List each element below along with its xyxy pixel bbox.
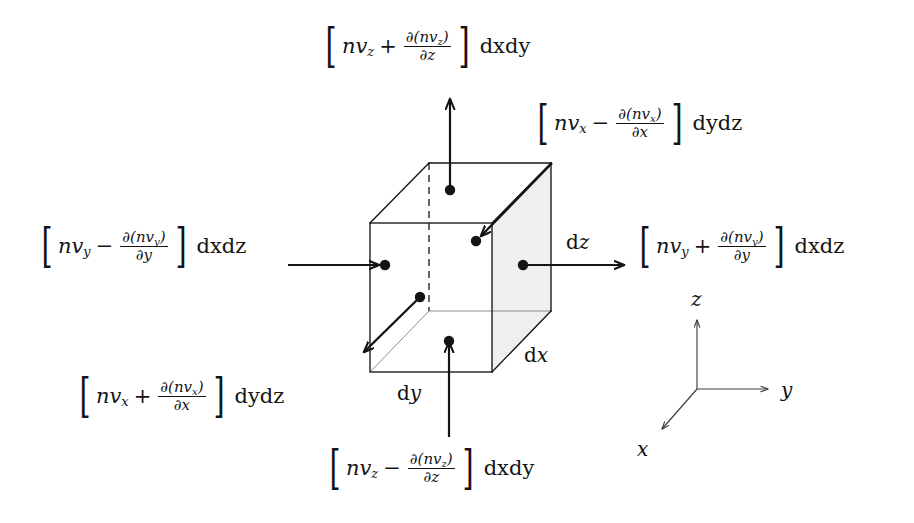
flux-top-right-operator: − [587,113,615,134]
dy-var: y [410,381,421,405]
flux-right-numerator-sub: y [752,236,758,247]
flux-right-symbol: nv [656,236,681,257]
flux-arrow-bottom [444,336,454,437]
bracket-left-icon: [ [79,378,90,416]
flux-bottom-symbol: nv [346,458,371,479]
flux-bottom-left-denominator: ∂x [172,397,192,413]
flux-bottom-left-numerator: ∂(nv [160,378,192,396]
flux-left-numerator: ∂(nv [122,228,154,246]
flux-arrow-left [288,260,390,270]
dimension-label-dx: dx [524,343,548,367]
dz-prefix: d [566,230,579,254]
axis-label-x: x [637,437,648,461]
flux-bottom-numerator-close: ) [447,450,453,468]
flux-top-right-symbol: nv [554,113,579,134]
flux-top-numerator: ∂(nv [406,28,438,46]
flux-top-symbol: nv [342,36,367,57]
flux-top-denominator: ∂z [417,47,437,63]
bracket-right-icon: ] [175,228,186,266]
flux-top-fraction: ∂(nvz) ∂z [404,30,451,63]
flux-top-right-fraction: ∂(nvx) ∂x [616,107,663,140]
axis-label-z: z [691,287,702,311]
bracket-left-icon: [ [329,450,340,488]
bracket-right-icon: ] [213,378,224,416]
flux-left-fraction: ∂(nvy) ∂y [120,230,167,263]
flux-bottom-numerator: ∂(nv [410,450,442,468]
flux-bottom-left-numerator-sub: x [192,386,198,397]
flux-bottom-fraction: ∂(nvz) ∂z [408,452,455,485]
bracket-left-icon: [ [639,228,650,266]
flux-top-numerator-close: ) [443,28,449,46]
flux-arrow-front-x [364,292,425,352]
flux-right-numerator: ∂(nv [720,228,752,246]
bracket-right-icon: ] [462,450,473,488]
bracket-right-icon: ] [671,105,682,143]
flux-bottom-operator: − [378,458,406,479]
flux-bottom-tail: dxdy [484,458,535,479]
flux-label-bottom: [ nvz − ∂(nvz) ∂z ] dxdy [326,450,534,488]
flux-bottom-denominator: ∂z [421,469,441,485]
flux-label-left: [ nvy − ∂(nvy) ∂y ] dxdz [38,228,246,266]
flux-bottom-left-tail: dydz [235,386,285,407]
flux-bottom-numerator-sub: z [442,458,447,469]
flux-label-top-right: [ nvx − ∂(nvx) ∂x ] dydz [534,105,742,143]
bracket-right-icon: ] [458,28,469,66]
figure-canvas: [ nvz + ∂(nvz) ∂z ] dxdy [ nvx − ∂(nvx) [0,0,914,523]
flux-bottom-symbol-sub: z [371,467,378,480]
dx-prefix: d [524,343,537,367]
bracket-left-icon: [ [537,105,548,143]
dimension-label-dy: dy [397,381,421,405]
flux-top-right-tail: dydz [693,113,743,134]
flux-top-tail: dxdy [480,36,531,57]
flux-right-tail: dxdz [795,236,845,257]
axes-triad [662,320,768,429]
flux-left-symbol: nv [58,236,83,257]
flux-right-operator: + [689,236,717,257]
dz-var: z [579,230,590,254]
flux-right-symbol-sub: y [681,245,688,258]
flux-bottom-left-symbol-sub: x [121,395,128,408]
flux-label-right: [ nvy + ∂(nvy) ∂y ] dxdz [636,228,844,266]
flux-top-right-numerator-sub: x [650,113,656,124]
flux-top-symbol-sub: z [367,45,374,58]
flux-top-operator: + [374,36,402,57]
flux-top-numerator-sub: z [438,36,443,47]
bracket-right-icon: ] [773,228,784,266]
flux-bottom-left-fraction: ∂(nvx) ∂x [158,380,205,413]
bracket-left-icon: [ [41,228,52,266]
dx-var: x [537,343,548,367]
flux-top-right-denominator: ∂x [630,124,650,140]
dimension-label-dz: dz [566,230,589,254]
flux-top-right-symbol-sub: x [579,122,586,135]
flux-label-bottom-left: [ nvx + ∂(nvx) ∂x ] dydz [76,378,284,416]
flux-label-top: [ nvz + ∂(nvz) ∂z ] dxdy [322,28,530,66]
flux-left-operator: − [91,236,119,257]
dy-prefix: d [397,381,410,405]
flux-left-denominator: ∂y [134,247,154,263]
axis-label-y: y [781,378,792,402]
flux-left-numerator-close: ) [160,228,166,246]
flux-top-right-numerator: ∂(nv [618,105,650,123]
flux-top-right-numerator-close: ) [656,105,662,123]
bracket-left-icon: [ [325,28,336,66]
flux-bottom-left-symbol: nv [96,386,121,407]
flux-left-numerator-sub: y [154,236,160,247]
flux-right-numerator-close: ) [758,228,764,246]
flux-left-symbol-sub: y [83,245,90,258]
flux-bottom-left-operator: + [129,386,157,407]
flux-right-denominator: ∂y [732,247,752,263]
flux-right-fraction: ∂(nvy) ∂y [718,230,765,263]
flux-bottom-left-numerator-close: ) [198,378,204,396]
flux-left-tail: dxdz [197,236,247,257]
